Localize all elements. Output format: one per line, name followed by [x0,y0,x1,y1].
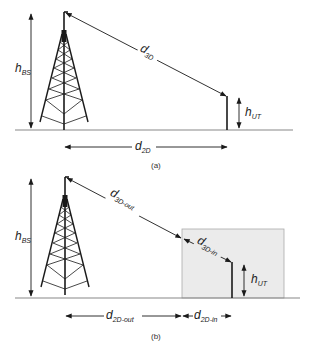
h-ut-label: hUT [245,105,262,120]
base-station-tower-icon [40,12,88,130]
base-station-tower-icon [41,177,89,295]
h-bs-label: hBS [15,229,31,244]
distance-definitions-diagram: hBS d3D hUT d2D (a) hBS d3D-out d3D-in [0,0,313,353]
caption-b: (b) [151,332,161,341]
caption-a: (a) [151,161,161,170]
panel-a: hBS d3D hUT d2D (a) [15,12,293,170]
panel-b: hBS d3D-out d3D-in hUT d2D-out d2D-in (b… [15,177,300,341]
h-bs-label: hBS [15,61,31,76]
